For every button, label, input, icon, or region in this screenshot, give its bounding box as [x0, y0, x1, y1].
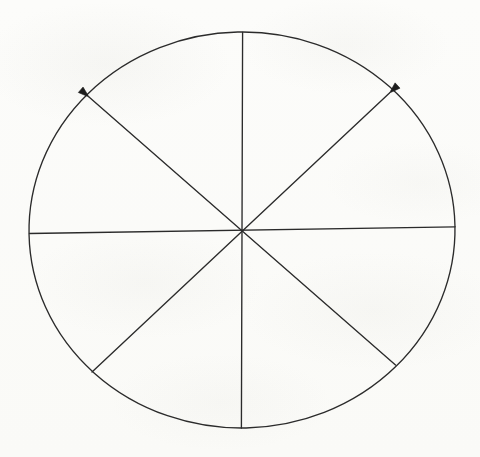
figure-canvas — [0, 0, 480, 457]
diagonal-diameter-ne-sw — [92, 93, 390, 372]
arrowhead-upper-left — [78, 87, 89, 97]
arrowheads-group — [78, 83, 400, 97]
circle-sector-diagram — [0, 0, 480, 457]
